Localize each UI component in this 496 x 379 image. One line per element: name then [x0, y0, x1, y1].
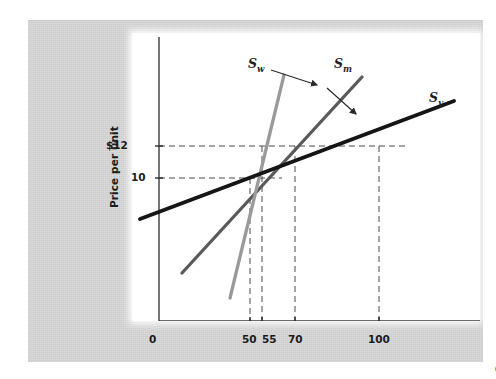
supply-curve-sw	[230, 75, 284, 298]
x-tick-label-55: 55	[262, 333, 277, 345]
supply-curve-sm	[182, 77, 362, 273]
curve-label-sy: Sy	[429, 90, 443, 108]
curve-label-sy-subscript: y	[438, 98, 443, 108]
figure-mat: $12 10 50 55 70 100 0 Price per unit Qua…	[28, 20, 483, 362]
curve-label-sw: Sw	[248, 56, 264, 74]
plot-panel: $12 10 50 55 70 100 0 Price per unit Qua…	[132, 33, 480, 321]
x-tick-label-70: 70	[288, 333, 303, 345]
x-tick-label-100: 100	[368, 333, 390, 345]
curve-label-sw-base: S	[248, 56, 257, 71]
curve-label-sm-base: S	[334, 56, 343, 71]
curve-label-sw-subscript: w	[257, 64, 264, 74]
curve-label-sy-base: S	[429, 90, 438, 105]
supply-curve-sy	[140, 101, 454, 219]
curve-label-sm: Sm	[334, 56, 352, 74]
supply-curve-chart	[132, 33, 480, 321]
figure-page: $12 10 50 55 70 100 0 Price per unit Qua…	[0, 0, 496, 379]
annotation-arrow-sw-to-sm	[271, 70, 317, 85]
curve-label-sm-subscript: m	[343, 64, 352, 74]
y-tick-label-10: 10	[131, 171, 146, 183]
x-tick-label-50: 50	[242, 333, 257, 345]
y-axis-title: Price per unit	[108, 126, 120, 208]
origin-label: 0	[149, 333, 156, 345]
